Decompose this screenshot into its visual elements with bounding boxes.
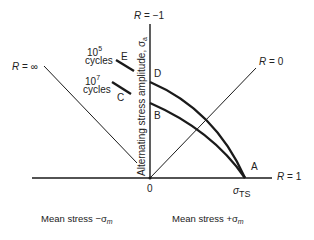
y-axis-text: Alternating stress amplitude, σ bbox=[136, 41, 147, 176]
r-zero-value: = 0 bbox=[266, 56, 283, 67]
mean-stress-negative-subscript: m bbox=[107, 218, 113, 225]
cycles-1e5-label: cycles bbox=[85, 56, 113, 66]
r-zero-line bbox=[150, 68, 256, 178]
cycles-exponent: 7 bbox=[96, 74, 100, 81]
point-b-label: B bbox=[154, 111, 161, 121]
r-zero-label: R = 0 bbox=[259, 57, 283, 67]
r-infinity-label: R = ∞ bbox=[12, 62, 38, 72]
mean-stress-positive-label: Mean stress +σm bbox=[172, 214, 244, 225]
y-axis-label: Alternating stress amplitude, σa bbox=[136, 37, 148, 176]
r-one-label: R = 1 bbox=[277, 172, 301, 182]
cycles-exponent: 5 bbox=[98, 45, 102, 52]
point-e-label: E bbox=[121, 52, 128, 62]
origin-label: 0 bbox=[147, 184, 153, 194]
mean-stress-positive-text: Mean stress +σ bbox=[172, 213, 238, 224]
mean-stress-positive-subscript: m bbox=[238, 218, 244, 225]
r-infinity-value: = ∞ bbox=[19, 61, 38, 72]
point-a-label: A bbox=[251, 162, 258, 172]
r-minus1-label: R = −1 bbox=[134, 11, 164, 21]
sigma-ts-subscript: TS bbox=[239, 189, 251, 199]
y-axis-subscript: a bbox=[141, 37, 148, 41]
cycles-1e7-label: cycles bbox=[83, 85, 111, 95]
r-minus1-value: = −1 bbox=[141, 10, 164, 21]
r-one-value: = 1 bbox=[284, 171, 301, 182]
mean-stress-negative-text: Mean stress −σ bbox=[41, 213, 107, 224]
curve-10e7-cycles bbox=[150, 103, 245, 178]
point-d-label: D bbox=[154, 69, 161, 79]
sigma-ts-label: σTS bbox=[233, 186, 251, 199]
mean-stress-negative-label: Mean stress −σm bbox=[41, 214, 113, 225]
origin-point bbox=[149, 177, 152, 180]
point-c-label: C bbox=[117, 93, 124, 103]
